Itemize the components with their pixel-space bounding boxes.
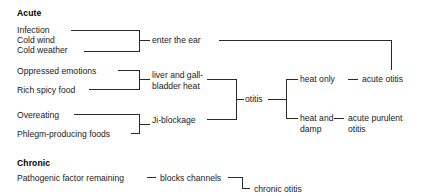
cause-phlegm-producing-foods: Phlegm-producing foods <box>17 129 110 139</box>
pattern-heat-only: heat only <box>300 74 335 84</box>
cause-cold-wind: Cold wind <box>17 35 55 45</box>
dash-heat-only-to-acute-otitis <box>348 79 358 80</box>
pattern-heat-and-damp-line1: heat and <box>300 113 333 123</box>
outcome-acute-otitis: acute otitis <box>362 74 403 84</box>
dash-pathogenic-to-blocks <box>147 177 156 178</box>
connector-lines <box>0 0 433 196</box>
dash-liver-gallbladder-heat <box>142 79 150 80</box>
mechanism-liver-gallbladder-heat-line2: bladder heat <box>152 81 200 91</box>
outcome-acute-purulent-otitis-line2: otitis <box>348 124 366 134</box>
mechanism-enter-the-ear: enter the ear <box>152 35 201 45</box>
dash-enter-the-ear <box>142 40 150 41</box>
cause-pathogenic-factor-remaining: Pathogenic factor remaining <box>17 173 124 183</box>
dash-heat-damp-to-acute-purulent <box>334 118 344 119</box>
outcome-chronic-otitis: chronic otitis <box>254 184 302 194</box>
otitis-aetiology-diagram: Acute Infection Cold wind Cold weather O… <box>0 0 433 196</box>
outcome-acute-purulent-otitis-line1: acute purulent <box>348 113 402 123</box>
dash-ji-blockage <box>142 124 150 125</box>
pattern-heat-and-damp-line2: damp <box>300 124 322 134</box>
cause-infection: Infection <box>17 25 50 35</box>
cause-cold-weather: Cold weather <box>17 45 68 55</box>
mechanism-blocks-channels: blocks channels <box>160 173 221 183</box>
cause-rich-spicy-food: Rich spicy food <box>17 85 75 95</box>
section-heading-acute: Acute <box>17 8 41 18</box>
mechanism-ji-blockage: Ji-blockage <box>152 115 195 125</box>
cause-overeating: Overeating <box>17 110 59 120</box>
mechanism-liver-gallbladder-heat-line1: liver and gall- <box>152 70 203 80</box>
cause-oppressed-emotions: Oppressed emotions <box>17 66 96 76</box>
mechanism-otitis: otitis <box>245 94 263 104</box>
section-heading-chronic: Chronic <box>17 158 50 168</box>
